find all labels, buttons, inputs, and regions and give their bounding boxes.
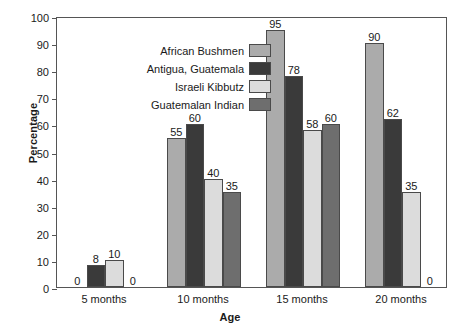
legend-item: Guatemalan Indian	[119, 96, 271, 113]
bar-value-label: 60	[178, 113, 213, 124]
legend-item-label: Antigua, Guatemala	[147, 63, 244, 75]
bar-value-label: 35	[394, 181, 429, 192]
y-axis-tick-label: 60	[5, 121, 49, 131]
x-axis-tick-label: 5 months	[64, 293, 144, 305]
bar	[365, 43, 384, 287]
legend-item: African Bushmen	[119, 42, 271, 59]
bar	[303, 130, 322, 287]
y-axis-tick-label: 30	[5, 203, 49, 213]
y-axis-tick-label: 100	[5, 13, 49, 23]
bar	[223, 192, 242, 287]
bar	[402, 192, 421, 287]
y-axis-tick-mark	[52, 208, 57, 209]
bar-value-label: 0	[413, 276, 448, 287]
legend-item: Israeli Kibbutz	[119, 78, 271, 95]
y-axis-tick-mark	[52, 262, 57, 263]
bar-value-label: 40	[196, 168, 231, 179]
bar-value-label: 60	[314, 113, 349, 124]
legend-color-swatch	[249, 44, 271, 57]
bar-value-label: 78	[277, 65, 312, 76]
bar	[285, 76, 304, 287]
plot-area: 0102030405060708090100081005560403595785…	[56, 17, 447, 288]
bar	[384, 119, 403, 287]
legend-color-swatch	[249, 98, 271, 111]
legend-item-label: Israeli Kibbutz	[175, 81, 244, 93]
bar-value-label: 35	[215, 181, 250, 192]
legend-item-label: African Bushmen	[160, 45, 244, 57]
y-axis-tick-label: 10	[5, 257, 49, 267]
bar	[167, 138, 186, 287]
y-axis-tick-label: 20	[5, 230, 49, 240]
legend-item: Antigua, Guatemala	[119, 60, 271, 77]
bar-value-label: 90	[357, 32, 392, 43]
legend-color-swatch	[249, 80, 271, 93]
x-axis-tick-label: 10 months	[163, 293, 243, 305]
bar	[87, 265, 106, 287]
x-axis-tick-label: 15 months	[262, 293, 342, 305]
x-axis-title: Age	[0, 311, 460, 323]
y-axis-tick-label: 40	[5, 176, 49, 186]
y-axis-tick-mark	[52, 154, 57, 155]
y-axis-tick-label: 90	[5, 40, 49, 50]
y-axis-tick-mark	[52, 45, 57, 46]
y-axis-tick-label: 70	[5, 94, 49, 104]
bar-value-label: 0	[116, 276, 151, 287]
y-axis-tick-mark	[52, 72, 57, 73]
legend: African BushmenAntigua, GuatemalaIsraeli…	[119, 42, 271, 114]
bar-value-label: 95	[258, 19, 293, 30]
bar	[186, 124, 205, 287]
y-axis-tick-label: 0	[5, 284, 49, 294]
bar	[204, 179, 223, 287]
legend-item-label: Guatemalan Indian	[151, 99, 244, 111]
y-axis-tick-label: 80	[5, 67, 49, 77]
y-axis-tick-mark	[52, 235, 57, 236]
y-axis-tick-label: 50	[5, 149, 49, 159]
y-axis-tick-mark	[52, 181, 57, 182]
y-axis-tick-mark	[52, 126, 57, 127]
y-axis-tick-mark	[52, 289, 57, 290]
bar-value-label: 10	[97, 249, 132, 260]
y-axis-tick-mark	[52, 18, 57, 19]
bar-chart: Percentage 01020304050607080901000810055…	[0, 0, 460, 333]
y-axis-tick-mark	[52, 99, 57, 100]
bar	[322, 124, 341, 287]
legend-color-swatch	[249, 62, 271, 75]
bar-value-label: 62	[376, 108, 411, 119]
x-axis-tick-label: 20 months	[361, 293, 441, 305]
